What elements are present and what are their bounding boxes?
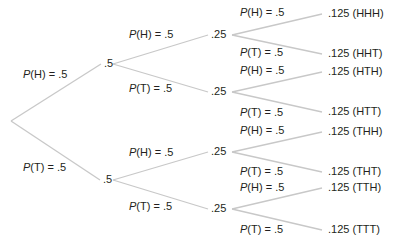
edge-label-level3: P(H) = .5	[240, 181, 284, 194]
probability-value: (H) = .5	[247, 6, 284, 18]
probability-value: (T) = .5	[247, 223, 283, 235]
leaf-outcome: .125 (THT)	[328, 165, 381, 178]
edge-label-level2: P(T) = .5	[129, 200, 172, 213]
probability-value: (H) = .5	[247, 124, 284, 136]
probability-value: (H) = .5	[247, 64, 284, 76]
edge-label-level3: P(H) = .5	[240, 124, 284, 137]
probability-value: (T) = .5	[247, 46, 283, 58]
edge-label-level1: P(T) = .5	[23, 161, 66, 174]
node-H-probability: .5	[104, 57, 113, 70]
edge-label-level3: P(H) = .5	[240, 6, 284, 19]
edge-label-level3: P(T) = .5	[240, 46, 283, 59]
edge-label-level3: P(H) = .5	[240, 64, 284, 77]
node-TT-probability: .25	[211, 202, 226, 215]
leaf-outcome: .125 (HTT)	[328, 105, 381, 118]
node-HH-probability: .25	[211, 28, 226, 41]
leaf-outcome: .125 (TTT)	[328, 223, 380, 236]
probability-value: (T) = .5	[136, 82, 172, 94]
node-TH-probability: .25	[211, 145, 226, 158]
probability-value: (T) = .5	[136, 200, 172, 212]
probability-value: (H) = .5	[136, 146, 173, 158]
edge-label-level3: P(T) = .5	[240, 165, 283, 178]
probability-value: (H) = .5	[30, 68, 67, 80]
leaf-outcome: .125 (HTH)	[328, 65, 382, 78]
edge-label-level2: P(H) = .5	[129, 146, 173, 159]
edge-label-level2: P(H) = .5	[129, 28, 173, 41]
probability-value: (T) = .5	[247, 106, 283, 118]
probability-tree-diagram: .5.5P(H) = .5P(T) = .5.25.25.25.25P(H) =…	[0, 0, 398, 251]
edge-label-level2: P(T) = .5	[129, 82, 172, 95]
leaf-outcome: .125 (THH)	[328, 125, 382, 138]
probability-value: (T) = .5	[247, 165, 283, 177]
edge-label-level3: P(T) = .5	[240, 106, 283, 119]
edge-label-level1: P(H) = .5	[23, 68, 67, 81]
edge-label-level3: P(T) = .5	[240, 223, 283, 236]
node-HT-probability: .25	[211, 85, 226, 98]
leaf-outcome: .125 (TTH)	[328, 181, 381, 194]
probability-value: (H) = .5	[247, 181, 284, 193]
probability-value: (H) = .5	[136, 28, 173, 40]
probability-value: (T) = .5	[30, 161, 66, 173]
leaf-outcome: .125 (HHH)	[328, 7, 384, 20]
node-T-probability: .5	[103, 173, 112, 186]
leaf-outcome: .125 (HHT)	[328, 47, 382, 60]
